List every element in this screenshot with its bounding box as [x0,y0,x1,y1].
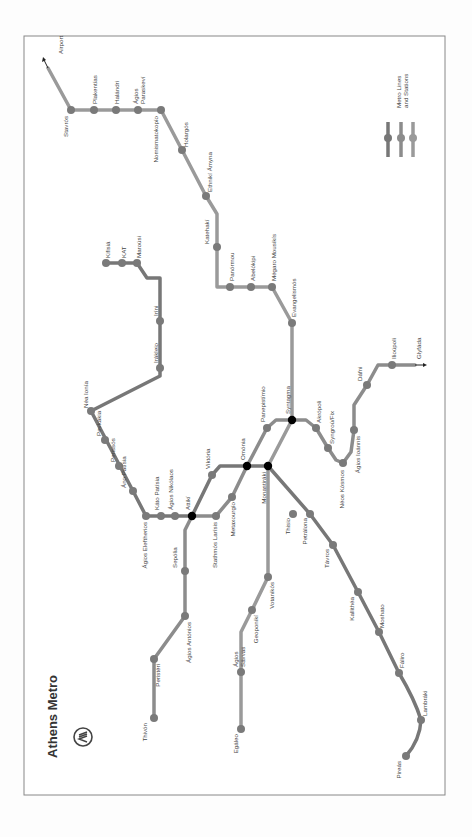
station-halandri[interactable] [112,106,120,114]
station-lambraki[interactable] [417,716,425,724]
station-egaleo[interactable] [237,725,245,733]
station-akropoli[interactable] [312,424,320,432]
station-label-katehaki: Katehakí [203,219,210,244]
station-sepolia[interactable] [181,567,189,575]
station-label-akropoli: Akrópoli [315,401,322,423]
station-kifisia[interactable] [102,259,110,267]
station-plakentias[interactable] [90,106,98,114]
station-label-nomismatokopio: Nomismatokopío [152,115,159,162]
station-marousi[interactable] [133,259,141,267]
station-label-pireas: Pireás [395,761,402,779]
station-panormou[interactable] [226,283,234,291]
station-label-viktoria: Viktória [204,448,211,469]
station-omonia[interactable] [243,462,251,470]
station-label-tavros: Távros [323,549,330,568]
station-agios-antonios[interactable] [181,612,189,620]
station-label-egaleo: Egáleo [232,733,239,753]
station-attiki[interactable] [188,512,196,520]
station-label-thisio: Thisio [284,517,291,534]
station-agios-eleftherios[interactable] [142,512,150,520]
station-label-monastiraki: Monastiráki [260,472,267,504]
station-ano-patisia[interactable] [129,487,137,495]
station-katehaki[interactable] [213,243,221,251]
station-nomismatokopio[interactable] [157,106,165,114]
station-ilioupoli[interactable] [388,361,396,369]
station-stavros[interactable] [67,106,75,114]
station-label-agios-savvas: Sávvas [239,647,246,667]
station-faliro[interactable] [395,669,403,677]
station-pevkakia[interactable] [101,436,109,444]
station-petralona[interactable] [306,510,314,518]
station-label-lambraki: Lambráki [421,691,428,716]
station-ethniki-amyna[interactable] [202,192,210,200]
station-metaxourgio[interactable] [228,493,236,501]
station-label-irini: Iríni [152,306,159,316]
station-neos-kosmos[interactable] [339,459,347,467]
station-label-agios-nikolaos: Ágios Nikólaos [167,469,174,510]
station-label-ethniki-amyna: Ethnikí Ámyna [206,152,213,192]
station-dafni[interactable] [363,381,371,389]
station-kallithea[interactable] [354,588,362,596]
station-label-evangelismos: Evangelismós [290,278,297,317]
legend-label-line2: and Stations [402,74,409,108]
station-label-halandri: Halándri [113,81,120,104]
station-panepistimio[interactable] [263,424,271,432]
station-label-geoponiki: Geoponikí [252,615,259,643]
map-frame [24,36,445,795]
station-label-irakleio: Irákleio [152,342,159,363]
station-label-nea-ionia: Néa Ionía [82,381,89,408]
page-title: Athens Metro [45,675,60,758]
station-agios-savvas[interactable] [237,668,245,676]
station-abelokipi[interactable] [247,283,255,291]
station-agios-paraskevi[interactable] [134,106,142,114]
legend-label-line1: Metro Lines [395,76,402,108]
station-label-panepistimio: Panepistímio [259,386,266,422]
station-pireas[interactable] [402,752,410,760]
station-label-stathmos-larisis: Stathmós Larísis [211,522,218,568]
station-label-thivon: Thivón [141,722,148,741]
station-label-syngrou-fix: Syngroú/Fix [328,410,335,444]
station-label-holargos: Holargós [182,122,189,147]
station-irini[interactable] [156,317,164,325]
station-label-airport: Airport [57,35,64,54]
station-monastiraki[interactable] [264,462,272,470]
station-thivon[interactable] [150,714,158,722]
station-kato-patisia[interactable] [157,512,165,520]
station-syntagma[interactable] [288,416,296,424]
station-megaro-mousikis[interactable] [268,283,276,291]
station-label-agios-paraskevi: Paraskeví [139,76,146,104]
station-moshato[interactable] [375,628,383,636]
station-label-petralona: Petrálona [301,517,308,544]
station-label-moshato: Moshato [378,604,385,628]
station-agios-ioannis[interactable] [350,426,358,434]
station-label-panormou: Panórmou [228,252,235,281]
athens-metro-logo-icon [74,728,92,746]
station-label-metaxourgio: Metaxourgío [229,501,236,536]
station-label-plakentias: Plakentías [91,75,98,104]
station-stathmos-larisis[interactable] [212,512,220,520]
station-label-omonia: Omónia [239,438,246,460]
station-label-agios-eleftherios: Ágios Eleftherios [141,522,148,568]
athens-metro-map: AirportStavrósPlakentíasHalándriÁgiosPar… [0,0,472,837]
station-label-agios-antonios: Ágios Antónios [185,622,192,663]
station-thisio[interactable] [289,510,297,518]
station-label-neos-kosmos: Néos Kósmos [338,470,345,509]
station-label-agios-ioannis: Ágios Ioánnis [354,436,361,473]
station-kat[interactable] [118,259,126,267]
station-label-kifisia: Kifisiá [104,241,111,258]
station-peristeri[interactable] [150,655,158,663]
station-evangelismos[interactable] [288,319,296,327]
station-tavros[interactable] [329,541,337,549]
station-geoponiki[interactable] [248,606,256,614]
station-agios-nikolaos[interactable] [171,512,179,520]
station-label-dafni: Dáfni [356,367,363,381]
station-label-votanikos: Votanikós [268,582,275,609]
station-syngrou-fix[interactable] [324,444,332,452]
station-label-ilioupoli: Ilioúpoli [390,338,397,359]
station-votanikos[interactable] [264,573,272,581]
station-label-syntagma: Syntagma [284,386,291,414]
station-viktoria[interactable] [208,471,216,479]
station-irakleio[interactable] [156,364,164,372]
station-label-pevkakia: Pevkákia [95,410,102,436]
station-label-kallithea: Kallithéa [348,596,355,620]
